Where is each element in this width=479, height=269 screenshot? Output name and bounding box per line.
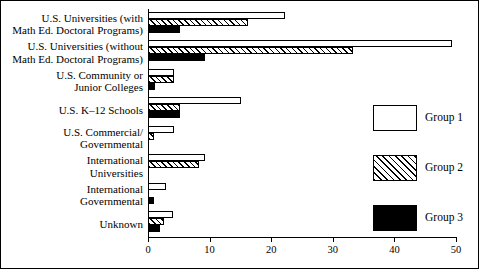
bar-group-2 [148,218,164,225]
category-label-line: U.S. Commercial/ [0,126,143,139]
bar-group-1 [148,69,174,76]
category-label-line: International [0,183,143,196]
category-label-line: International [0,154,143,167]
category-label: InternationalUniversities [0,154,143,179]
category-label-line: U.S. K–12 Schools [0,104,143,117]
x-tick [333,237,334,242]
x-tick [148,237,149,242]
category-label: U.S. K–12 Schools [0,104,143,117]
bar-group-1 [148,211,173,218]
bar-group-3 [148,54,205,61]
category-label-line: Math Ed. Doctoral Programs) [0,53,143,66]
bar-group-3 [148,83,155,90]
category-group: U.S. Universities (withoutMath Ed. Docto… [148,38,456,67]
bar-group-3 [148,26,180,33]
category-group: U.S. Community orJunior Colleges [148,66,456,95]
category-label-line: U.S. Community or [0,69,143,82]
bar-group-2 [148,161,199,168]
legend-swatch-icon [373,155,417,181]
bar-group-3 [148,111,180,118]
legend-label: Group 3 [425,211,463,223]
legend-swatch-icon [373,205,417,231]
legend-item: Group 2 [373,155,473,183]
category-label-line: Governmental [0,195,143,208]
bar-group-1 [148,12,285,19]
category-label-line: U.S. Universities (without [0,40,143,53]
bar-group-2 [148,104,180,111]
chart-figure: 01020304050 U.S. Universities (withMath … [0,0,479,269]
category-group: U.S. Universities (withMath Ed. Doctoral… [148,9,456,38]
category-label: U.S. Commercial/Governmental [0,126,143,151]
category-label-line: Math Ed. Doctoral Programs) [0,24,143,37]
x-tick-label: 0 [145,244,150,256]
legend-label: Group 1 [425,111,463,123]
category-label-line: U.S. Universities (with [0,12,143,25]
bar-group-2 [148,47,353,54]
bar-group-1 [148,40,452,47]
bar-group-2 [148,19,248,26]
x-tick [271,237,272,242]
bar-group-2 [148,76,174,83]
bar-group-3 [148,197,154,204]
category-label-line: Unknown [0,218,143,231]
bar-group-3 [148,225,160,232]
bar-group-1 [148,97,241,104]
category-label: InternationalGovernmental [0,183,143,208]
legend-item: Group 1 [373,105,473,133]
x-tick-label: 10 [204,244,215,256]
x-tick-label: 20 [266,244,277,256]
category-label-line: Governmental [0,138,143,151]
category-label: U.S. Universities (withMath Ed. Doctoral… [0,12,143,37]
category-label-line: Junior Colleges [0,81,143,94]
category-label: U.S. Universities (withoutMath Ed. Docto… [0,40,143,65]
bar-group-1 [148,183,166,190]
category-label: Unknown [0,218,143,231]
chart-legend: Group 1Group 2Group 3 [373,105,473,255]
category-label-line: Universities [0,167,143,180]
x-tick-label: 30 [328,244,339,256]
bar-group-1 [148,126,174,133]
x-tick [210,237,211,242]
legend-item: Group 3 [373,205,473,233]
bar-group-1 [148,154,205,161]
legend-label: Group 2 [425,161,463,173]
category-label: U.S. Community orJunior Colleges [0,69,143,94]
legend-swatch-icon [373,105,417,131]
bar-group-2 [148,133,154,140]
